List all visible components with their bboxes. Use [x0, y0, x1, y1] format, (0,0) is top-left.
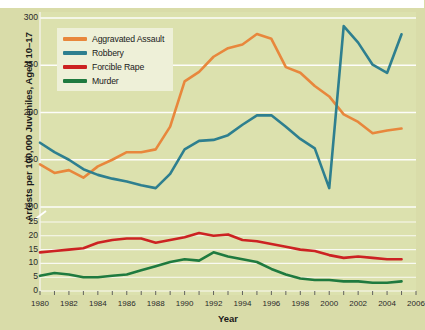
- x-tick-label: 2006: [407, 299, 425, 308]
- x-axis-title: Year: [40, 313, 416, 324]
- legend-label: Forcible Rape: [92, 62, 144, 72]
- y-tick-label: 20: [28, 231, 38, 240]
- y-tick-label: 10: [28, 258, 38, 267]
- x-tick-label: 1990: [176, 299, 194, 308]
- y-tick-label: 15: [28, 245, 38, 254]
- legend-item: Murder: [63, 74, 169, 88]
- legend-color-swatch: [63, 37, 87, 40]
- x-tick-label: 1992: [205, 299, 223, 308]
- x-tick-label: 2002: [349, 299, 367, 308]
- x-tick-label: 1984: [89, 299, 107, 308]
- y-axis-title: Arrests per 100,000 Juveniles, Aged 10–1…: [23, 42, 34, 222]
- x-tick-label: 1996: [262, 299, 280, 308]
- x-tick-label: 1994: [234, 299, 252, 308]
- y-tick-label: 5: [33, 272, 38, 281]
- chart-legend: Aggravated AssaultRobberyForcible RapeMu…: [57, 28, 173, 91]
- legend-item: Robbery: [63, 46, 169, 60]
- legend-label: Aggravated Assault: [92, 34, 164, 44]
- x-tick-label: 2000: [320, 299, 338, 308]
- y-tick-label: 300: [24, 13, 38, 22]
- x-tick-label: 1998: [291, 299, 309, 308]
- x-tick-label: 1986: [118, 299, 136, 308]
- legend-color-swatch: [63, 79, 87, 82]
- x-tick-label: 1982: [60, 299, 78, 308]
- legend-item: Forcible Rape: [63, 60, 169, 74]
- legend-color-swatch: [63, 65, 87, 68]
- legend-item: Aggravated Assault: [63, 32, 169, 46]
- x-tick-label: 1988: [147, 299, 165, 308]
- legend-color-swatch: [63, 51, 87, 54]
- legend-label: Murder: [92, 76, 119, 86]
- x-tick-label: 1980: [31, 299, 49, 308]
- y-tick-label: 0: [33, 286, 38, 295]
- x-tick-label: 2004: [378, 299, 396, 308]
- legend-label: Robbery: [92, 48, 124, 58]
